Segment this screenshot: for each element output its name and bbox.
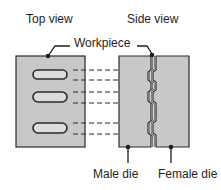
workpiece-dot-top <box>46 54 51 59</box>
slot-2 <box>33 92 67 102</box>
diagram-canvas <box>0 0 221 190</box>
slot-3 <box>33 123 67 133</box>
male-die-dot <box>126 145 131 150</box>
workpiece-dot-side <box>150 53 155 58</box>
female-die-dot <box>169 145 174 150</box>
slot-1 <box>33 70 67 79</box>
female-die <box>153 56 189 147</box>
male-die <box>119 56 151 147</box>
die-leaders <box>128 147 171 163</box>
workpiece-leaders <box>48 46 152 56</box>
